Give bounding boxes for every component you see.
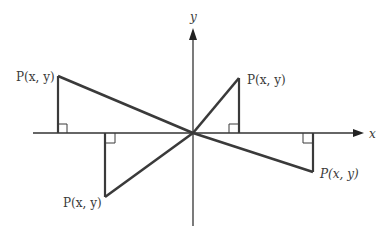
point-label-quadrant-i: P(x, y) [247,73,286,87]
triangle-quadrant-iv [193,133,313,172]
point-label-quadrant-iii: P(x, y) [63,196,102,210]
terminal-side-i [193,78,239,133]
triangle-quadrant-iii [105,133,193,197]
terminal-side-iv [193,133,313,172]
right-angle-marker-iii [105,133,115,143]
point-label-quadrant-ii: P(x, y) [16,70,55,84]
point-label-quadrant-iv: P(x, y) [319,167,359,181]
reference-triangles-diagram: x y P(x, y) P(x, y) P(x, y) P(x, y) [0,0,390,232]
terminal-side-ii [58,76,193,133]
y-axis-arrow-icon [189,28,197,40]
x-axis-arrow-icon [353,129,364,137]
right-angle-marker-iv [303,133,313,143]
triangle-quadrant-ii [58,76,193,133]
terminal-side-iii [105,133,193,197]
x-axis-label: x [369,127,376,141]
triangle-quadrant-i [193,78,239,133]
right-angle-marker-ii [58,124,67,133]
right-angle-marker-i [229,124,239,133]
y-axis-label: y [189,10,197,24]
